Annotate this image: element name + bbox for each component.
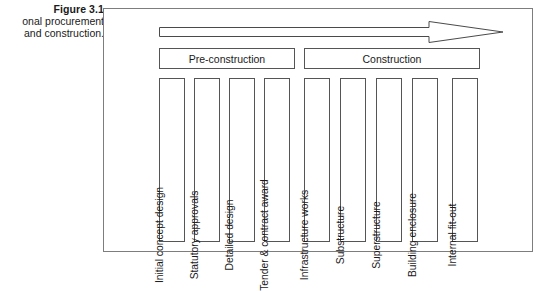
stage-column-label: Superstructure	[365, 201, 389, 269]
phase-header-label: Construction	[363, 53, 422, 65]
stage-column-label: Detailed design	[218, 200, 242, 271]
stage-column-tender-contract-award: Tender & contract award	[264, 78, 290, 242]
stage-column-label: Building enclosure	[401, 193, 425, 277]
phase-header-label: Pre-construction	[189, 53, 265, 65]
progression-arrow-icon	[159, 19, 504, 45]
stage-column-substructure: Substructure	[340, 78, 366, 242]
stage-column-label: Tender & contract award	[253, 179, 277, 291]
figure-caption-line-2: onal procurement	[0, 15, 104, 27]
stage-column-infrastructure-works: Infrastructure works	[304, 78, 330, 242]
stage-column-superstructure: Superstructure	[376, 78, 402, 242]
figure-frame: Pre-construction Construction Initial co…	[103, 8, 533, 252]
figure-caption-title: Figure 3.1	[0, 3, 104, 15]
stage-column-detailed-design: Detailed design	[229, 78, 255, 242]
stage-column-label: Infrastructure works	[293, 190, 317, 280]
phase-header-pre-construction: Pre-construction	[159, 48, 295, 69]
stage-column-building-enclosure: Building enclosure	[412, 78, 438, 242]
stage-column-label: Statutory approvals	[183, 191, 207, 280]
stage-column-label: Substructure	[329, 206, 353, 264]
stage-column-initial-concept-design: Initial concept design	[159, 78, 185, 242]
phase-header-construction: Construction	[304, 48, 480, 69]
stage-column-internal-fit-out: Internal fit-out	[452, 78, 478, 242]
stage-column-label: Internal fit-out	[441, 204, 465, 267]
stage-column-statutory-approvals: Statutory approvals	[194, 78, 220, 242]
figure-caption-line-3: and construction.	[0, 27, 104, 39]
figure-caption: Figure 3.1 onal procurement and construc…	[0, 3, 104, 40]
stage-column-label: Initial concept design	[148, 187, 172, 283]
